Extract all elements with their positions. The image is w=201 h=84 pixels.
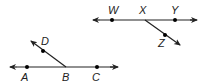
label-z: Z [157,37,166,49]
label-y: Y [171,4,179,16]
point-d [41,49,45,53]
bottom-figure: D A B C [10,35,118,83]
label-b: B [62,71,69,83]
geometry-diagram: W X Y Z D A B C [0,0,201,84]
label-x: X [138,4,147,16]
label-w: W [108,4,120,16]
label-c: C [92,71,100,83]
top-figure: W X Y Z [93,4,197,49]
point-w [110,18,114,22]
point-c [95,65,99,69]
point-y [173,18,177,22]
label-d: D [41,35,49,47]
point-a [25,65,29,69]
label-a: A [20,71,28,83]
